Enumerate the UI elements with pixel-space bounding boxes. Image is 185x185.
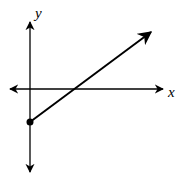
x-axis-label: x [167,84,175,100]
ray [27,32,152,126]
coordinate-graph: y x [0,0,185,185]
y-axis-label: y [33,5,42,21]
ray-endpoint-dot [27,119,34,126]
